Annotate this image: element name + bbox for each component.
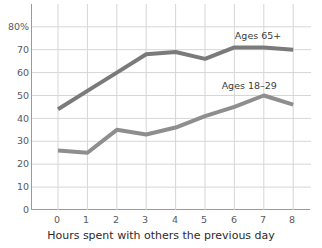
y-tick-label-50: 50 (0, 91, 29, 101)
line-chart: 80% 70 60 50 40 30 20 10 0 0 1 2 3 4 5 6… (0, 0, 322, 248)
x-tick-label-3: 3 (133, 214, 157, 225)
x-tick-label-7: 7 (251, 214, 275, 225)
y-tick-label-60: 60 (0, 68, 29, 78)
y-tick-label-0: 0 (0, 205, 29, 215)
y-tick-label-30: 30 (0, 136, 29, 146)
x-tick-label-8: 8 (280, 214, 304, 225)
y-tick-label-40: 40 (0, 114, 29, 124)
y-tick-label-10: 10 (0, 182, 29, 192)
x-tick-label-5: 5 (192, 214, 216, 225)
x-tick-label-0: 0 (45, 214, 69, 225)
x-axis-title: Hours spent with others the previous day (0, 229, 322, 243)
x-tick-label-4: 4 (163, 214, 187, 225)
y-tick-label-80: 80% (0, 22, 29, 32)
x-tick-label-1: 1 (74, 214, 98, 225)
x-tick-label-6: 6 (222, 214, 246, 225)
x-tick-label-2: 2 (104, 214, 128, 225)
y-tick-label-70: 70 (0, 45, 29, 55)
series-label-ages-18-29: Ages 18–29 (222, 80, 277, 91)
series-label-ages-65-plus: Ages 65+ (235, 30, 281, 41)
y-tick-label-20: 20 (0, 159, 29, 169)
